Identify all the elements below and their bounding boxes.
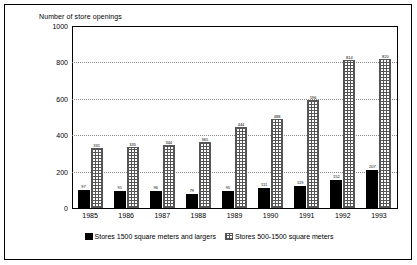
bar-value-label: 596: [310, 95, 317, 100]
bar-value-label: 96: [154, 185, 158, 190]
bar-group: 91335: [114, 26, 139, 208]
x-axis-tick-label: 1991: [287, 212, 327, 219]
bar-value-label: 95: [226, 185, 230, 190]
legend-label-stores-500-1500: Stores 500-1500 square meters: [235, 233, 333, 240]
chart-title: Number of store openings: [39, 13, 122, 20]
bar-stores-500-1500: 365: [199, 142, 211, 208]
bar-value-label: 365: [202, 137, 209, 142]
bar-value-label: 335: [129, 142, 136, 147]
bar-value-label: 111: [261, 182, 267, 187]
y-axis-tick-label: 1000: [38, 23, 68, 30]
chart-legend: Stores 1500 square meters and largers St…: [5, 233, 413, 240]
bar-value-label: 207: [369, 164, 376, 169]
bar-group: 96344: [150, 26, 175, 208]
legend-item-stores-500-1500: Stores 500-1500 square meters: [225, 233, 333, 240]
bar-stores-500-1500: 596: [307, 100, 319, 208]
bar-stores-500-1500: 335: [127, 147, 139, 208]
y-axis-labels: 02004006008001000: [35, 26, 68, 208]
bar-value-label: 91: [117, 185, 121, 190]
x-axis-tick-label: 1985: [70, 212, 110, 219]
plot-border-right: [397, 26, 398, 208]
legend-swatch-dark-icon: [85, 233, 93, 240]
bar-stores-500-1500: 488: [271, 119, 283, 208]
bar-group: 152814: [330, 26, 355, 208]
bar-stores-1500-and-larger: 207: [366, 170, 378, 208]
legend-label-stores-1500-and-larger: Stores 1500 square meters and largers: [95, 233, 216, 240]
chart-frame: Number of store openings 020040060080010…: [4, 4, 412, 260]
x-axis-tick-label: 1987: [142, 212, 182, 219]
x-axis-labels: 198519861987198819891990199119921993: [72, 212, 397, 224]
x-axis-tick-label: 1989: [215, 212, 255, 219]
bar-value-label: 331: [93, 143, 100, 148]
legend-swatch-light-icon: [225, 233, 233, 240]
bar-group: 119596: [294, 26, 319, 208]
bar-stores-500-1500: 820: [379, 59, 391, 208]
bar-stores-1500-and-larger: 79: [186, 194, 198, 208]
bar-value-label: 97: [81, 184, 85, 189]
bar-value-label: 344: [165, 140, 172, 145]
plot-area: 9733191335963447936595444111488119596152…: [72, 26, 397, 208]
bar-stores-1500-and-larger: 152: [330, 180, 342, 208]
bar-value-label: 488: [274, 114, 281, 119]
bar-group: 207820: [366, 26, 391, 208]
x-axis-tick-label: 1990: [251, 212, 291, 219]
bar-value-label: 444: [238, 122, 245, 127]
bar-value-label: 820: [382, 54, 389, 59]
bar-value-label: 79: [190, 188, 194, 193]
bar-stores-1500-and-larger: 91: [114, 191, 126, 208]
bar-stores-1500-and-larger: 119: [294, 186, 306, 208]
bar-group: 95444: [222, 26, 247, 208]
bar-stores-500-1500: 331: [91, 148, 103, 208]
y-axis-tick-label: 600: [38, 95, 68, 102]
y-axis-tick-label: 800: [38, 59, 68, 66]
x-axis-tick-label: 1992: [323, 212, 363, 219]
x-axis-tick-label: 1988: [178, 212, 218, 219]
bar-stores-1500-and-larger: 95: [222, 191, 234, 208]
bar-stores-500-1500: 344: [163, 145, 175, 208]
bar-stores-1500-and-larger: 96: [150, 191, 162, 208]
bar-stores-1500-and-larger: 97: [78, 190, 90, 208]
bar-value-label: 119: [297, 180, 303, 185]
legend-item-stores-1500-and-larger: Stores 1500 square meters and largers: [85, 233, 216, 240]
x-axis-line: [72, 208, 398, 209]
x-axis-tick-label: 1986: [106, 212, 146, 219]
y-axis-tick-label: 200: [38, 168, 68, 175]
bar-group: 111488: [258, 26, 283, 208]
bar-stores-500-1500: 444: [235, 127, 247, 208]
bar-group: 79365: [186, 26, 211, 208]
bar-value-label: 152: [333, 174, 340, 179]
x-axis-tick-label: 1993: [359, 212, 399, 219]
y-axis-tick-label: 400: [38, 132, 68, 139]
bar-stores-1500-and-larger: 111: [258, 188, 270, 208]
bar-group: 97331: [78, 26, 103, 208]
y-axis-tick-label: 0: [38, 205, 68, 212]
bar-stores-500-1500: 814: [343, 60, 355, 208]
bar-value-label: 814: [346, 55, 353, 60]
